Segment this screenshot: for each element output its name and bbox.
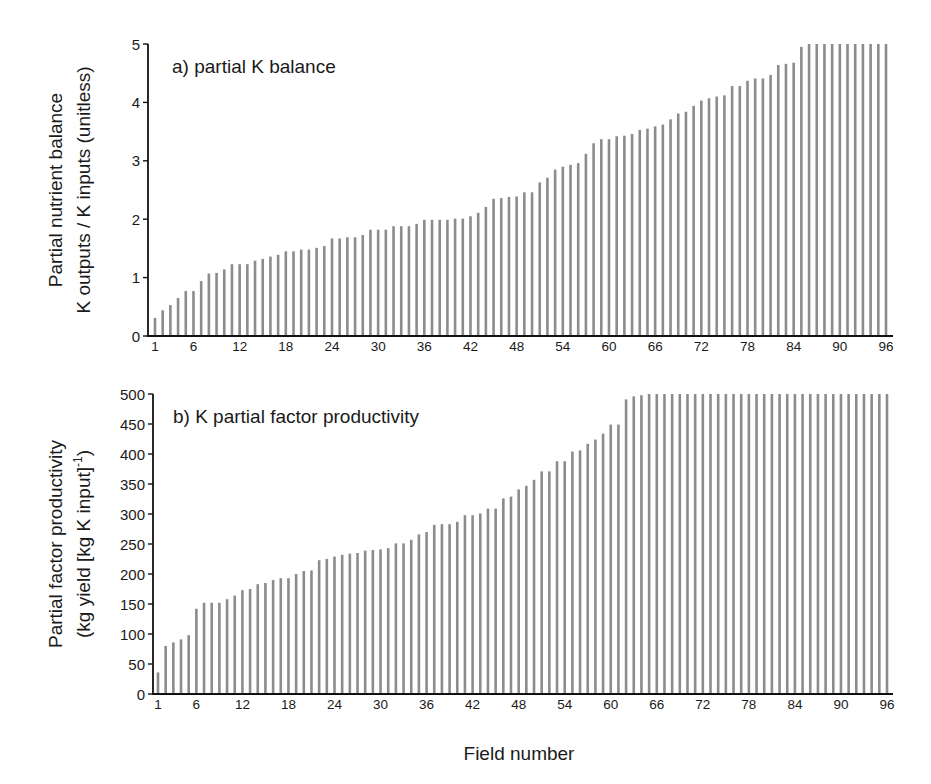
bar-field-84 xyxy=(792,63,795,336)
x-tick-label: 42 xyxy=(463,339,478,354)
bar-field-20 xyxy=(303,571,306,694)
bar-field-83 xyxy=(785,64,788,336)
bar-field-66 xyxy=(655,394,658,694)
bar-field-8 xyxy=(208,274,211,336)
bar-field-82 xyxy=(778,394,781,694)
bar-field-94 xyxy=(870,394,873,694)
bar-field-31 xyxy=(385,230,388,336)
bar-field-57 xyxy=(586,444,589,694)
bar-field-63 xyxy=(631,134,634,336)
bar-field-28 xyxy=(364,551,367,694)
bar-field-54 xyxy=(563,461,566,694)
bar-field-21 xyxy=(310,570,313,694)
bar-field-22 xyxy=(315,248,318,336)
bar-field-5 xyxy=(184,291,187,336)
bar-field-46 xyxy=(500,198,503,336)
figure: 01234516121824303642485460667278849096 a… xyxy=(0,0,931,784)
panel-a-bars xyxy=(154,44,888,336)
bar-field-26 xyxy=(349,554,352,694)
bar-field-16 xyxy=(272,580,275,694)
x-tick-label: 6 xyxy=(193,697,201,712)
bar-field-40 xyxy=(454,219,457,336)
bar-field-26 xyxy=(346,237,349,336)
bar-field-18 xyxy=(287,578,290,694)
bar-field-77 xyxy=(740,394,743,694)
bar-field-1 xyxy=(154,318,157,336)
y-tick-label: 150 xyxy=(120,596,145,613)
panel-a-ylabel-line1: Partial nutrient balance xyxy=(45,93,66,287)
panel-a-ylabel-line2: K outputs / K inputs (unitless) xyxy=(73,66,94,313)
bar-field-56 xyxy=(579,450,582,694)
bar-field-48 xyxy=(515,196,518,336)
bar-field-7 xyxy=(203,603,206,694)
bar-field-66 xyxy=(654,126,657,336)
bar-field-86 xyxy=(808,44,811,336)
bar-field-67 xyxy=(663,394,666,694)
x-tick-label: 36 xyxy=(417,339,432,354)
y-tick-label: 450 xyxy=(120,416,145,433)
bar-field-56 xyxy=(577,163,580,336)
x-tick-label: 78 xyxy=(741,697,756,712)
bar-field-1 xyxy=(157,672,160,694)
bar-field-74 xyxy=(715,97,718,336)
bar-field-73 xyxy=(708,98,711,336)
bar-field-23 xyxy=(323,246,326,336)
y-tick-label: 200 xyxy=(120,566,145,583)
bar-field-22 xyxy=(318,560,321,694)
bar-field-47 xyxy=(510,497,513,694)
bar-field-53 xyxy=(554,170,557,336)
bar-field-15 xyxy=(261,259,264,336)
bar-field-60 xyxy=(608,139,611,336)
bar-field-79 xyxy=(755,394,758,694)
x-tick-label: 96 xyxy=(879,697,894,712)
bar-field-90 xyxy=(840,394,843,694)
y-tick-label: 2 xyxy=(132,211,140,228)
bar-field-73 xyxy=(709,394,712,694)
bar-field-52 xyxy=(546,178,549,336)
bar-field-54 xyxy=(562,167,565,336)
bar-field-59 xyxy=(602,434,605,694)
bar-field-9 xyxy=(215,273,218,336)
x-tick-label: 48 xyxy=(509,339,524,354)
bar-field-75 xyxy=(723,95,726,336)
x-tick-label: 84 xyxy=(786,339,802,354)
x-tick-label: 24 xyxy=(324,339,340,354)
bar-field-2 xyxy=(164,646,167,694)
panel-a-title: a) partial K balance xyxy=(172,56,336,77)
bar-field-31 xyxy=(387,548,390,694)
panel-b-k-partial-factor-productivity: 0501001502002503003504004505001612182430… xyxy=(45,386,895,713)
bar-field-37 xyxy=(433,525,436,694)
bar-field-41 xyxy=(464,515,467,694)
panel-a-y-axis-title: Partial nutrient balance K outputs / K i… xyxy=(45,66,94,313)
panel-b-ylabel-superscript: -1 xyxy=(71,456,85,467)
bar-field-70 xyxy=(685,112,688,336)
x-tick-label: 90 xyxy=(832,339,847,354)
bar-field-62 xyxy=(625,399,628,694)
bar-field-95 xyxy=(877,44,880,336)
bar-field-94 xyxy=(869,44,872,336)
bar-field-43 xyxy=(477,213,480,336)
bar-field-52 xyxy=(548,471,551,694)
bar-field-34 xyxy=(410,540,413,694)
bar-field-87 xyxy=(815,44,818,336)
y-tick-label: 400 xyxy=(120,446,145,463)
bar-field-20 xyxy=(300,250,303,336)
bar-field-4 xyxy=(180,639,183,694)
bar-field-23 xyxy=(326,559,329,694)
bar-field-86 xyxy=(809,394,812,694)
bar-field-32 xyxy=(392,226,395,336)
bar-field-21 xyxy=(308,250,311,336)
bar-field-88 xyxy=(824,394,827,694)
bar-field-19 xyxy=(292,251,295,336)
bar-field-10 xyxy=(226,599,229,694)
bar-field-55 xyxy=(569,165,572,336)
y-tick-label: 250 xyxy=(120,536,145,553)
y-tick-label: 50 xyxy=(128,656,145,673)
bar-field-60 xyxy=(609,425,612,694)
x-tick-label: 90 xyxy=(833,697,848,712)
bar-field-96 xyxy=(886,394,889,694)
bar-field-89 xyxy=(832,394,835,694)
bar-field-87 xyxy=(817,394,820,694)
bar-field-41 xyxy=(461,219,464,336)
x-tick-label: 54 xyxy=(557,697,573,712)
